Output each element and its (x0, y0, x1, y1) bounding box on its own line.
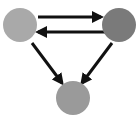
edges (32, 17, 112, 83)
node-C (56, 81, 90, 115)
directed-graph-diagram (0, 0, 140, 115)
node-B (102, 8, 136, 42)
nodes (3, 8, 136, 115)
arrow-A-to-C (32, 43, 62, 83)
node-A (3, 8, 37, 42)
arrow-B-to-C (82, 43, 112, 83)
